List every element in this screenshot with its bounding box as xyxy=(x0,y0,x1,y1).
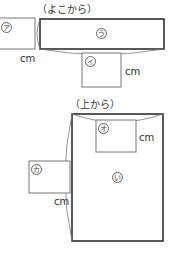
label-i-top: い xyxy=(112,172,123,183)
label-ka: カ xyxy=(31,164,42,175)
cm-label-a: cm xyxy=(20,53,35,64)
cm-label-i: cm xyxy=(125,66,140,77)
side-view-heading: （よこから） xyxy=(37,1,97,16)
label-o: オ xyxy=(98,123,109,134)
top-view-heading: （上から） xyxy=(70,96,120,111)
cm-label-o: cm xyxy=(139,132,154,143)
label-u: う xyxy=(96,28,107,39)
diagram-canvas xyxy=(0,0,180,256)
cm-label-ka: cm xyxy=(54,196,69,207)
label-a: ア xyxy=(1,22,12,33)
label-i-side: イ xyxy=(85,56,96,67)
